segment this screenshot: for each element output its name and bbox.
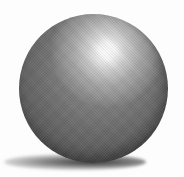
sphere-texture — [19, 14, 168, 163]
render-scene — [0, 0, 184, 177]
sphere — [19, 14, 168, 163]
